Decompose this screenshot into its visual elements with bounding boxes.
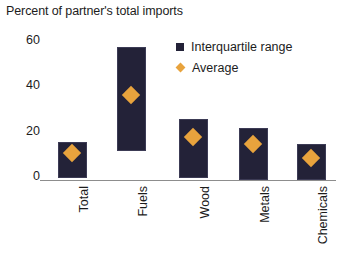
chart-legend: Interquartile range Average bbox=[176, 37, 336, 79]
y-axis-tick-0: 0 bbox=[10, 170, 40, 183]
x-axis-label-fuels: Fuels bbox=[137, 186, 150, 217]
y-axis-tick-20: 20 bbox=[10, 125, 40, 138]
square-marker-icon bbox=[176, 43, 184, 51]
diamond-marker-icon bbox=[176, 63, 186, 73]
legend-item-average: Average bbox=[176, 58, 336, 77]
legend-label-interquartile-range: Interquartile range bbox=[191, 40, 292, 54]
y-axis-tick-40: 40 bbox=[10, 79, 40, 92]
chart-figure: Percent of partner's total imports 60 40… bbox=[0, 0, 340, 262]
x-axis-label-wood: Wood bbox=[199, 186, 212, 218]
x-axis-label-total: Total bbox=[78, 186, 91, 212]
y-axis-tick-60: 60 bbox=[10, 34, 40, 47]
x-axis-label-chemicals: Chemicals bbox=[317, 186, 330, 244]
y-axis-tick-labels: 60 40 20 0 bbox=[8, 0, 40, 262]
x-axis-line bbox=[40, 180, 336, 181]
legend-label-average: Average bbox=[192, 61, 238, 75]
x-axis-label-metals: Metals bbox=[259, 186, 272, 223]
legend-item-interquartile-range: Interquartile range bbox=[176, 37, 336, 56]
